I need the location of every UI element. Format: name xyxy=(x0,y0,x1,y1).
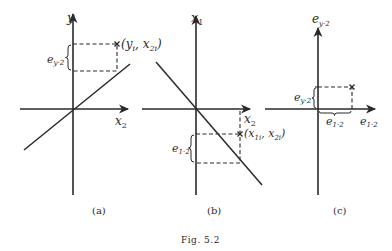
y-axis-label: y xyxy=(66,10,75,25)
x-axis-label: x2 xyxy=(115,114,127,130)
point-label: (yi, x2i) xyxy=(121,37,162,53)
figure-caption: Fig. 5.2 xyxy=(181,235,220,245)
panel-a: y x2 (yi, x2i) ey·2 (a) xyxy=(20,10,162,216)
brace-h-label: e1·2 xyxy=(326,115,344,129)
residual-box xyxy=(318,87,352,109)
panel-c: ey·2 e1·2 ey·2 e1·2 (c) xyxy=(265,12,378,216)
e12-axis-label: e1·2 xyxy=(360,115,378,129)
x1-axis-label: x1 xyxy=(191,10,203,27)
brace-label: e1·2 xyxy=(172,142,190,156)
panel-b-label: (b) xyxy=(207,205,221,216)
x2-axis-label: x2 xyxy=(244,112,256,128)
point-label: (x1i, x2i) xyxy=(244,127,285,142)
figure-5-2: y x2 (yi, x2i) ey·2 (a) x1 x2 (x1i, x2i)… xyxy=(0,0,392,251)
brace-v-label: ey·2 xyxy=(294,91,312,105)
ey2-axis-label: ey·2 xyxy=(312,12,330,28)
panel-a-label: (a) xyxy=(92,205,106,216)
brace-h-icon xyxy=(319,111,351,116)
brace-label: ey·2 xyxy=(47,53,65,67)
brace-icon xyxy=(66,45,72,70)
regression-line xyxy=(24,64,130,150)
panel-b: x1 x2 (x1i, x2i) e1·2 (b) xyxy=(142,10,285,216)
residual-box xyxy=(73,44,117,71)
panel-c-label: (c) xyxy=(333,205,347,216)
residual-box-outer xyxy=(196,111,240,163)
brace-v-icon xyxy=(312,88,316,108)
